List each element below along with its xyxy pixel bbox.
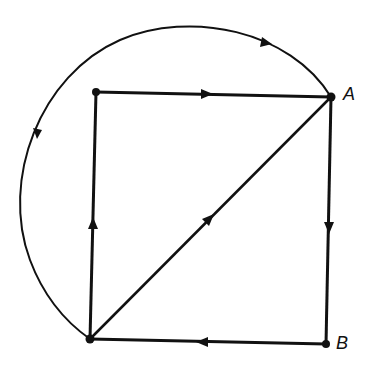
diagram-canvas: A B — [0, 0, 379, 369]
edge-BL-TL — [90, 92, 96, 339]
edge-A-B — [326, 97, 331, 344]
label-B: B — [336, 333, 348, 354]
arrow-icon — [324, 222, 334, 234]
label-A: A — [343, 84, 355, 105]
node-B — [322, 340, 330, 348]
arrow-icon — [201, 89, 213, 99]
arrow-icon — [88, 217, 98, 229]
node-top-left — [92, 88, 100, 96]
node-bottom-left — [86, 335, 95, 344]
arrow-icon — [260, 37, 272, 47]
arrow-icon — [196, 337, 208, 347]
edge-TL-A — [96, 92, 331, 97]
edge-arc-A-to-BL — [20, 26, 331, 339]
graph-svg — [0, 0, 379, 369]
node-A — [327, 93, 336, 102]
